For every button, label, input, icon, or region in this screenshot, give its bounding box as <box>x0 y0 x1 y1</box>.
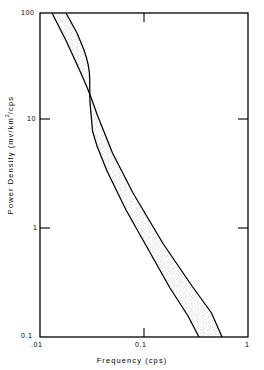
x-tick-label-1: 1 <box>245 341 250 348</box>
y-axis-ticks <box>40 119 50 228</box>
log-log-plot <box>0 0 264 370</box>
y-tick-label-100: 100 <box>21 9 34 16</box>
y-axis-ticks-right <box>238 119 248 228</box>
y-axis-title: Power Density (mv/km2/cps <box>4 96 15 214</box>
y-tick-label-10: 10 <box>27 115 36 122</box>
chart-figure: 100 10 1 0.1 .01 0.1 1 Power Density (mv… <box>0 0 264 370</box>
y-axis-title-main: Power Density (mv/km <box>6 117 15 214</box>
plot-frame <box>40 13 248 337</box>
data-band <box>52 13 222 337</box>
y-axis-title-exponent: 2 <box>4 114 10 117</box>
y-axis-title-tail: /cps <box>6 96 15 114</box>
x-tick-label-0p01: .01 <box>31 341 43 348</box>
x-tick-label-0p1: 0.1 <box>135 341 147 348</box>
y-tick-label-1: 1 <box>33 224 38 231</box>
x-axis-title: Frequency (cps) <box>0 356 264 365</box>
y-tick-label-0p1: 0.1 <box>21 332 33 339</box>
